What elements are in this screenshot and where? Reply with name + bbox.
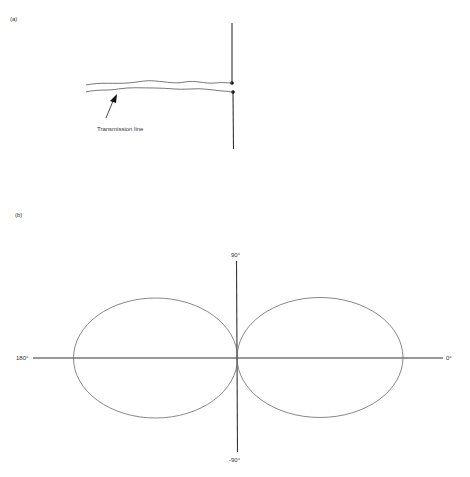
polar-axes — [33, 261, 443, 452]
dipole-antenna — [230, 23, 235, 149]
dipole-lower-arm — [233, 92, 234, 149]
arrowhead-icon — [110, 94, 117, 103]
antenna-diagram — [0, 0, 470, 477]
transmission-line-conductor-lower — [86, 88, 233, 92]
transmission-line-conductor-upper — [86, 81, 232, 85]
annotation-arrow — [106, 94, 117, 118]
transmission-line — [86, 81, 233, 92]
